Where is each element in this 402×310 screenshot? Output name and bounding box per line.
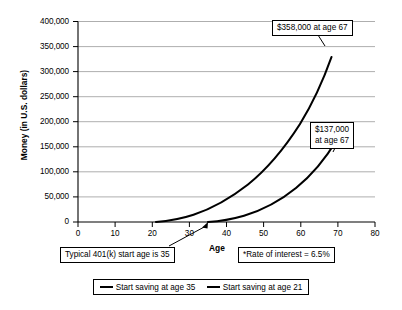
callout-137000-line2: at age 67 bbox=[315, 136, 349, 147]
y-tick-label: 300,000 bbox=[25, 68, 69, 76]
y-tick-label: 400,000 bbox=[25, 18, 69, 26]
legend-label-age-21: Start saving at age 21 bbox=[223, 283, 303, 292]
y-tick-marks bbox=[73, 22, 78, 223]
y-tick-label: 350,000 bbox=[25, 43, 69, 51]
chart-legend: Start saving at age 35 Start saving at a… bbox=[93, 279, 309, 295]
x-tick-label: 10 bbox=[103, 230, 127, 238]
x-tick-label: 80 bbox=[363, 230, 387, 238]
y-axis-title: Money (in U.S. dollars) bbox=[19, 45, 29, 185]
y-tick-label: 100,000 bbox=[25, 168, 69, 176]
x-tick-label: 60 bbox=[289, 230, 313, 238]
retirement-savings-chart: 400,000 350,000 300,000 250,000 200,000 … bbox=[0, 0, 402, 310]
x-axis-title: Age bbox=[209, 243, 225, 253]
x-tick-marks bbox=[78, 222, 375, 227]
y-tick-label: 0 bbox=[25, 218, 69, 226]
callout-137000: $137,000 at age 67 bbox=[310, 122, 354, 149]
x-tick-label: 0 bbox=[66, 230, 90, 238]
leader-arrowhead-start-age bbox=[202, 222, 208, 229]
chart-root: 400,000 350,000 300,000 250,000 200,000 … bbox=[0, 0, 402, 310]
legend-entry-age-35: Start saving at age 35 bbox=[100, 283, 196, 292]
x-tick-label: 40 bbox=[215, 230, 239, 238]
y-tick-label: 250,000 bbox=[25, 93, 69, 101]
series-line-age-35 bbox=[208, 140, 337, 223]
legend-entry-age-21: Start saving at age 21 bbox=[207, 283, 303, 292]
y-tick-label: 150,000 bbox=[25, 143, 69, 151]
legend-label-age-35: Start saving at age 35 bbox=[116, 283, 196, 292]
callout-rate-of-interest: *Rate of interest = 6.5% bbox=[238, 247, 335, 263]
callout-137000-line1: $137,000 bbox=[315, 125, 349, 136]
callout-358000: $358,000 at age 67 bbox=[272, 20, 353, 36]
y-tick-label: 50,000 bbox=[25, 193, 69, 201]
x-tick-label: 30 bbox=[177, 230, 201, 238]
y-tick-label: 200,000 bbox=[25, 118, 69, 126]
leader-line-358 bbox=[318, 35, 325, 46]
callout-typical-start-age: Typical 401(k) start age is 35 bbox=[60, 247, 175, 263]
x-tick-label: 70 bbox=[326, 230, 350, 238]
x-tick-label: 50 bbox=[252, 230, 276, 238]
legend-swatch-icon bbox=[100, 286, 113, 288]
gridlines bbox=[78, 22, 375, 197]
legend-swatch-icon bbox=[207, 286, 220, 288]
x-tick-label: 20 bbox=[140, 230, 164, 238]
